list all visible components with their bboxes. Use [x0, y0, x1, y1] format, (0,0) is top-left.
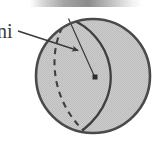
sphere-diagram-svg [0, 0, 156, 144]
sphere-center-point [93, 75, 98, 80]
figure-root: ni [0, 0, 156, 144]
leader-label: ni [0, 21, 13, 41]
